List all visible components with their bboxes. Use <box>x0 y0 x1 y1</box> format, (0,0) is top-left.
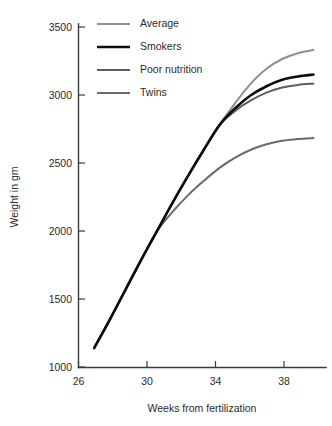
y-tick-label-3000: 3000 <box>49 89 73 101</box>
y-tick-label-2500: 2500 <box>49 157 73 169</box>
x-tick-label-34: 34 <box>210 375 222 387</box>
series-line-smokers <box>94 75 313 349</box>
legend-label-average: Average <box>140 17 179 29</box>
legend-label-smokers: Smokers <box>140 40 181 52</box>
line-chart: 3500 3000 2500 2000 1500 1000 26 30 34 3… <box>0 0 332 426</box>
series-line-twins <box>94 138 313 348</box>
y-axis-ticks: 3500 3000 2500 2000 1500 1000 <box>49 21 85 373</box>
chart-legend: Average Smokers Poor nutrition Twins <box>97 17 203 98</box>
x-axis-title: Weeks from fertilization <box>148 402 257 414</box>
x-tick-label-26: 26 <box>73 375 85 387</box>
legend-label-twins: Twins <box>140 86 167 98</box>
chart-axes <box>79 24 327 368</box>
y-tick-label-2000: 2000 <box>49 225 73 237</box>
chart-figure: 3500 3000 2500 2000 1500 1000 26 30 34 3… <box>0 0 332 426</box>
x-axis-ticks: 26 30 34 38 <box>73 361 290 387</box>
legend-label-poor-nutrition: Poor nutrition <box>140 63 203 75</box>
y-axis-title: Weight in gm <box>8 166 20 227</box>
x-tick-label-38: 38 <box>278 375 290 387</box>
series-line-poor-nutrition <box>94 84 313 348</box>
y-tick-label-3500: 3500 <box>49 21 73 33</box>
series-group <box>94 50 313 348</box>
y-tick-label-1000: 1000 <box>49 361 73 373</box>
y-tick-label-1500: 1500 <box>49 293 73 305</box>
x-tick-label-30: 30 <box>141 375 153 387</box>
series-line-average <box>94 50 313 348</box>
